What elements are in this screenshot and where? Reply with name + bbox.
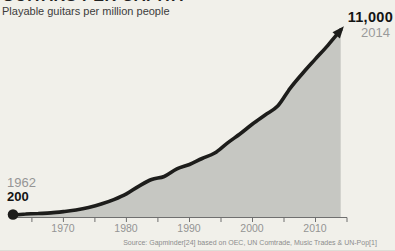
source-attribution: Source: Gapminder[24] based on OEC, UN C…	[120, 239, 380, 246]
x-axis-label-1970: 1970	[45, 222, 81, 234]
x-axis-label-1980: 1980	[108, 222, 144, 234]
x-axis-label-1990: 1990	[171, 222, 207, 234]
area-fill	[13, 30, 341, 218]
end-year-label: 2014	[361, 25, 390, 40]
end-value-label: 11,000	[348, 9, 393, 25]
x-axis-label-2010: 2010	[297, 222, 333, 234]
start-year-label: 1962	[7, 175, 36, 190]
start-value-label: 200	[7, 189, 29, 204]
start-point-dot	[8, 209, 19, 220]
area-chart	[0, 0, 395, 251]
x-axis-label-2000: 2000	[234, 222, 270, 234]
